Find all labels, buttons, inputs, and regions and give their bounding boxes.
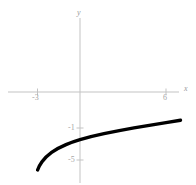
x-axis-label: x (184, 85, 188, 93)
graph-figure: y x -3 6 -1 -5 (0, 0, 196, 185)
x-tick-label-negative-3: -3 (32, 94, 39, 102)
y-axis-label: y (77, 9, 81, 17)
y-tick-label-negative-5: -5 (68, 156, 75, 164)
y-tick-label-negative-1: -1 (68, 124, 75, 132)
function-curve (38, 120, 181, 170)
x-tick-label-6: 6 (163, 94, 167, 102)
